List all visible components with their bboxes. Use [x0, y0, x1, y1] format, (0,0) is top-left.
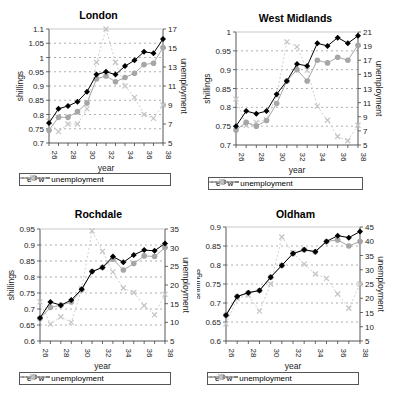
y-axis-label: shillings: [197, 269, 202, 299]
e-marker: [141, 247, 147, 253]
y2-tick-label: 15: [365, 309, 374, 318]
y2-tick-label: 15: [170, 300, 179, 309]
y2-tick-label: 11: [168, 82, 177, 91]
unemployment-marker: [325, 118, 330, 123]
y2-tick-label: 35: [170, 225, 179, 234]
series-unemployment-line: [226, 237, 360, 324]
y2-tick-label: 21: [363, 28, 372, 37]
unemployment-marker: [152, 312, 157, 317]
x-tick-label: 36: [145, 151, 154, 160]
w-marker: [315, 57, 321, 63]
y2-tick-label: 40: [365, 237, 374, 246]
e-marker: [94, 72, 100, 78]
y2-tick-label: 9: [363, 113, 368, 122]
unemployment-marker: [302, 262, 307, 267]
x-axis-label: year: [289, 165, 306, 175]
y-tick-label: 1.1: [33, 25, 45, 34]
y-tick-label: 0.6: [24, 337, 36, 346]
legend-unemployment-line-icon: [208, 373, 234, 381]
chart-plot: 0.70.750.80.850.90.9511.051.157911131517…: [0, 0, 197, 197]
y2-axis-label: unemployment: [179, 58, 189, 114]
unemployment-marker: [94, 60, 99, 65]
y2-tick-label: 30: [365, 266, 374, 275]
legend-item-unemployment: unemployment: [236, 374, 291, 383]
y2-tick-label: 5: [365, 337, 370, 346]
legend-label-unemployment: unemployment: [239, 374, 291, 383]
y-tick-label: 0.85: [215, 85, 231, 94]
unemployment-marker: [48, 322, 53, 327]
x-tick-label: 34: [318, 153, 327, 162]
series-e-line: [236, 36, 358, 126]
e-marker: [243, 108, 249, 114]
e-marker: [245, 290, 251, 296]
w-marker: [325, 60, 331, 66]
chart-legend: e w unemployment: [19, 173, 171, 186]
y-tick-label: 0.75: [205, 280, 221, 289]
w-marker: [121, 267, 127, 273]
y2-tick-label: 13: [363, 85, 372, 94]
x-tick-label: 30: [272, 349, 281, 358]
x-tick-label: 32: [294, 349, 303, 358]
e-marker: [160, 36, 166, 42]
legend-item-unemployment: unemployment: [237, 179, 292, 188]
x-tick-label: 38: [166, 349, 175, 358]
x-tick-label: 26: [227, 349, 236, 358]
y2-tick-label: 45: [365, 223, 374, 232]
chart-plot: 0.60.650.70.750.80.850.95101520253035404…: [197, 197, 394, 394]
e-marker: [301, 247, 307, 253]
legend-item-unemployment: unemployment: [48, 374, 103, 383]
unemployment-marker: [313, 272, 318, 277]
e-marker: [120, 259, 126, 265]
y2-tick-label: 5: [363, 141, 368, 150]
y2-tick-label: 5: [170, 337, 175, 346]
x-axis-label: year: [98, 163, 115, 173]
y2-tick-label: 5: [168, 139, 173, 148]
y-tick-label: 0.65: [19, 321, 35, 330]
y-tick-label: 0.95: [19, 225, 35, 234]
legend-unemployment-line-icon: [209, 178, 235, 186]
y2-tick-label: 11: [363, 99, 372, 108]
e-marker: [65, 103, 71, 109]
e-marker: [46, 120, 52, 126]
y-tick-label: 0.75: [28, 125, 44, 134]
x-tick-label: 34: [126, 151, 135, 160]
y2-tick-label: 17: [363, 56, 372, 65]
chart-legend: e w unemployment: [208, 177, 363, 190]
y-tick-label: 0.7: [220, 141, 232, 150]
y2-tick-label: 10: [170, 318, 179, 327]
x-tick-label: 28: [62, 349, 71, 358]
y2-tick-label: 15: [363, 70, 372, 79]
x-axis-label: year: [285, 361, 302, 371]
unemployment-marker: [142, 303, 147, 308]
legend-label-unemployment: unemployment: [51, 175, 103, 184]
y-tick-label: 0.9: [210, 223, 222, 232]
unemployment-marker: [315, 104, 320, 109]
x-tick-label: 32: [107, 151, 116, 160]
w-marker: [141, 62, 147, 68]
w-marker: [122, 75, 128, 81]
y-tick-label: 0.9: [220, 66, 232, 75]
y2-tick-label: 20: [365, 294, 374, 303]
unemployment-marker: [279, 234, 284, 239]
x-tick-label: 34: [124, 349, 133, 358]
unemployment-marker: [345, 138, 350, 143]
chart-plot: 0.60.650.70.750.80.850.90.95510152025303…: [0, 197, 197, 394]
e-marker: [234, 294, 240, 300]
e-marker: [264, 108, 270, 114]
x-tick-label: 36: [339, 153, 348, 162]
w-marker: [84, 100, 90, 106]
y-tick-label: 0.85: [205, 242, 221, 251]
w-marker: [132, 70, 138, 76]
unemployment-marker: [110, 269, 115, 274]
w-marker: [113, 79, 119, 85]
y2-tick-label: 25: [365, 280, 374, 289]
w-marker: [65, 115, 71, 121]
chart-panel-west-midlands: West Midlands 0.70.750.80.850.90.9515791…: [197, 0, 394, 197]
e-marker: [335, 233, 341, 239]
e-marker: [294, 61, 300, 67]
y-tick-label: 1.05: [28, 39, 44, 48]
unemployment-marker: [151, 116, 156, 121]
y2-tick-label: 20: [170, 281, 179, 290]
e-marker: [253, 111, 259, 117]
e-marker: [56, 106, 62, 112]
